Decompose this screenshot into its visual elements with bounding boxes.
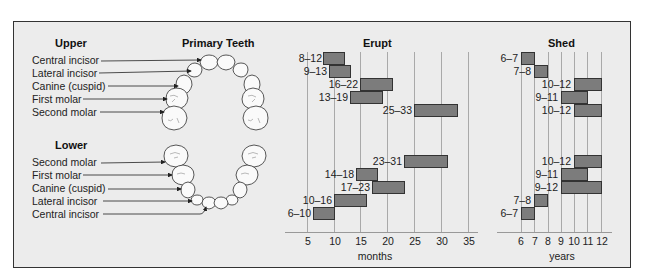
- erupt-range-upper-lateral-incisor: 9–13: [304, 65, 327, 78]
- shed-bar-upper-central-incisor: [521, 52, 535, 65]
- shed-bar-lower-lateral-incisor: [534, 194, 548, 207]
- erupt-range-upper-central-incisor: 8–12: [299, 52, 322, 65]
- lower-canine-left-icon: [181, 182, 195, 198]
- shed-range-lower-central-incisor: 6–7: [500, 207, 518, 220]
- erupt-bar-lower-lateral-incisor: [334, 194, 367, 207]
- upper-lateral-incisor-right-icon: [233, 63, 248, 77]
- erupt-bar-upper-central-incisor: [323, 52, 345, 65]
- shed-tick-11: 11: [583, 235, 594, 247]
- shed-range-upper-second-molar: 10–12: [542, 104, 571, 117]
- erupt-bar-upper-second-molar: [414, 104, 458, 117]
- erupt-range-lower-second-molar: 23–31: [373, 155, 402, 168]
- shed-x-axis: [497, 232, 612, 233]
- erupt-bar-upper-first-molar: [350, 91, 383, 104]
- erupt-bar-lower-second-molar: [404, 155, 448, 168]
- erupt-bar-upper-lateral-incisor: [329, 65, 351, 78]
- shed-range-upper-first-molar: 9–11: [535, 91, 558, 104]
- erupt-axis-label: months: [358, 250, 392, 262]
- shed-bar-lower-first-molar: [561, 168, 588, 181]
- lower-first-molar-left-icon: [172, 165, 194, 185]
- shed-tick-10: 10: [568, 235, 580, 247]
- shed-axis-label: years: [549, 250, 575, 262]
- shed-tick-9: 9: [558, 235, 564, 247]
- shed-tick-7: 7: [532, 235, 538, 247]
- erupt-bar-lower-central-incisor: [313, 207, 335, 220]
- shed-range-upper-canine: 10–12: [542, 78, 571, 91]
- shed-bar-upper-second-molar: [574, 104, 602, 117]
- upper-second-molar-left-icon: [162, 106, 187, 130]
- shed-range-lower-lateral-incisor: 7–8: [513, 194, 531, 207]
- erupt-tick-30: 30: [436, 235, 448, 247]
- shed-range-lower-first-molar: 9–11: [535, 168, 558, 181]
- erupt-bar-lower-first-molar: [356, 168, 378, 181]
- lower-central-incisor-right-icon: [214, 197, 228, 209]
- shed-tick-6: 6: [518, 235, 524, 247]
- shed-range-upper-central-incisor: 6–7: [500, 52, 518, 65]
- erupt-tick-25: 25: [409, 235, 421, 247]
- erupt-tick-15: 15: [355, 235, 367, 247]
- erupt-tick-35: 35: [463, 235, 475, 247]
- shed-tick-8: 8: [545, 235, 551, 247]
- erupt-tick-10: 10: [329, 235, 341, 247]
- shed-range-lower-second-molar: 10–12: [542, 155, 571, 168]
- upper-second-molar-right-icon: [243, 106, 268, 130]
- shed-bar-upper-canine: [574, 78, 602, 91]
- erupt-bar-lower-canine: [372, 181, 405, 194]
- upper-central-incisor-left-icon: [200, 55, 218, 70]
- shed-tick-12: 12: [596, 235, 608, 247]
- erupt-range-lower-lateral-incisor: 10–16: [303, 194, 332, 207]
- erupt-bar-upper-canine: [360, 78, 393, 91]
- erupt-range-lower-central-incisor: 6–10: [288, 207, 311, 220]
- erupt-tick-5: 5: [305, 235, 311, 247]
- upper-first-molar-right-icon: [242, 88, 264, 109]
- erupt-range-upper-second-molar: 25–33: [383, 104, 412, 117]
- erupt-tick-20: 20: [382, 235, 394, 247]
- upper-central-incisor-right-icon: [217, 55, 235, 70]
- shed-range-lower-canine: 9–12: [535, 181, 558, 194]
- erupt-x-axis: [285, 232, 478, 233]
- shed-bar-lower-second-molar: [574, 155, 602, 168]
- lower-lateral-incisor-left-icon: [191, 195, 203, 205]
- erupt-grid-25: [414, 52, 415, 232]
- erupt-range-lower-first-molar: 14–18: [325, 168, 354, 181]
- erupt-range-upper-first-molar: 13–19: [319, 91, 348, 104]
- shed-range-upper-lateral-incisor: 7–8: [513, 65, 531, 78]
- shed-bar-lower-canine: [561, 181, 602, 194]
- erupt-grid-35: [468, 52, 469, 232]
- lower-second-molar-left-icon: [164, 145, 188, 167]
- upper-first-molar-left-icon: [166, 88, 188, 109]
- shed-bar-upper-first-molar: [561, 91, 588, 104]
- upper-lateral-incisor-left-icon: [187, 63, 202, 77]
- erupt-grid-30: [441, 52, 442, 232]
- erupt-range-upper-canine: 16–22: [329, 78, 358, 91]
- shed-bar-lower-central-incisor: [521, 207, 535, 220]
- lower-second-molar-right-icon: [242, 145, 266, 167]
- erupt-range-lower-canine: 17–23: [341, 181, 370, 194]
- shed-bar-upper-lateral-incisor: [534, 65, 548, 78]
